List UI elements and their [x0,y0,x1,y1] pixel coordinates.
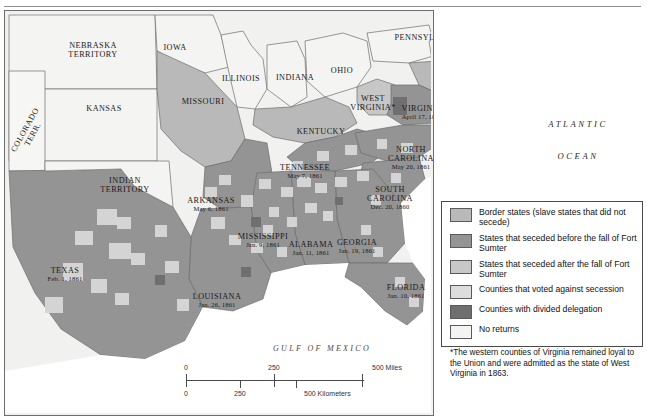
legend-label-seceded-before-sumter: States that seceded before the fall of F… [479,233,642,254]
map-canvas: NEBRASKATERRITORYIOWAILLINOISINDIANTERRI… [4,10,434,416]
legend-swatch-seceded-after-sumter [450,260,472,274]
legend-row-seceded-before-sumter: States that seceded before the fall of F… [450,228,642,254]
map-geometry [5,11,431,413]
scale-tick-km-250 [240,380,241,388]
legend-row-counties-divided-delegation: Counties with divided delegation [450,299,642,319]
legend-row-counties-against-secession: Counties that voted against secession [450,279,642,299]
scale-tick-miles-500 [362,374,363,387]
scale-tick-miles-0 [186,374,187,387]
water-label-atlantic: ATLANTIC [518,120,638,130]
legend-row-no-returns: No returns [450,319,642,339]
legend-footnote: *The western counties of Virginia remain… [450,348,638,380]
scale-label-km-500: 500 Kilometers [304,390,351,397]
legend-label-no-returns: No returns [479,324,519,334]
state-colorado-territory [9,71,45,171]
legend-swatch-seceded-before-sumter [450,234,472,248]
legend-label-border-states: Border states (slave states that did not… [479,207,642,228]
scale-label-km-0: 0 [184,390,188,397]
water-label-ocean: OCEAN [518,152,638,162]
top-divider-rule [4,6,641,7]
scale-label-miles-0: 0 [184,364,188,371]
legend-swatch-counties-against-secession [450,285,472,299]
scale-tick-km-500 [296,380,297,388]
secession-map-page: NEBRASKATERRITORYIOWAILLINOISINDIANTERRI… [0,0,647,420]
scale-bar: 0 250 500 Miles 0 250 500 Kilometers [186,366,386,408]
scale-tick-miles-250 [274,374,275,387]
legend-swatch-border-states [450,208,472,222]
legend-label-counties-against-secession: Counties that voted against secession [479,284,624,294]
scale-label-miles-250: 250 [268,364,280,371]
map-legend: Border states (slave states that did not… [441,201,643,347]
legend-label-counties-divided-delegation: Counties with divided delegation [479,304,602,314]
legend-swatch-no-returns [450,325,472,339]
legend-row-border-states: Border states (slave states that did not… [450,202,642,228]
scale-label-km-250: 250 [234,390,246,397]
scale-label-miles-500: 500 Miles [372,364,402,371]
legend-swatch-counties-divided-delegation [450,305,472,319]
legend-row-seceded-after-sumter: States that seceded after the fall of Fo… [450,254,642,280]
legend-label-seceded-after-sumter: States that seceded after the fall of Fo… [479,259,642,280]
